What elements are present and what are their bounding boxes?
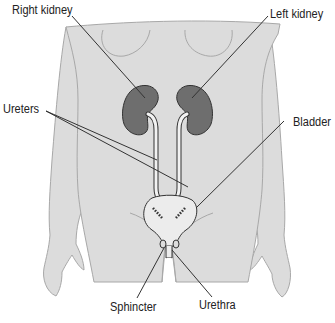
- label-bladder: Bladder: [293, 116, 331, 129]
- label-sphincter: Sphincter: [110, 301, 156, 314]
- label-urethra: Urethra: [199, 299, 236, 312]
- urinary-system-diagram: [0, 0, 335, 323]
- label-ureters: Ureters: [3, 103, 39, 116]
- sphincter: [160, 240, 166, 248]
- label-left-kidney: Left kidney: [270, 8, 323, 21]
- label-right-kidney: Right kidney: [12, 4, 73, 17]
- urethra: [166, 246, 172, 258]
- urethra-opening: [166, 258, 172, 264]
- sphincter-right: [173, 240, 179, 248]
